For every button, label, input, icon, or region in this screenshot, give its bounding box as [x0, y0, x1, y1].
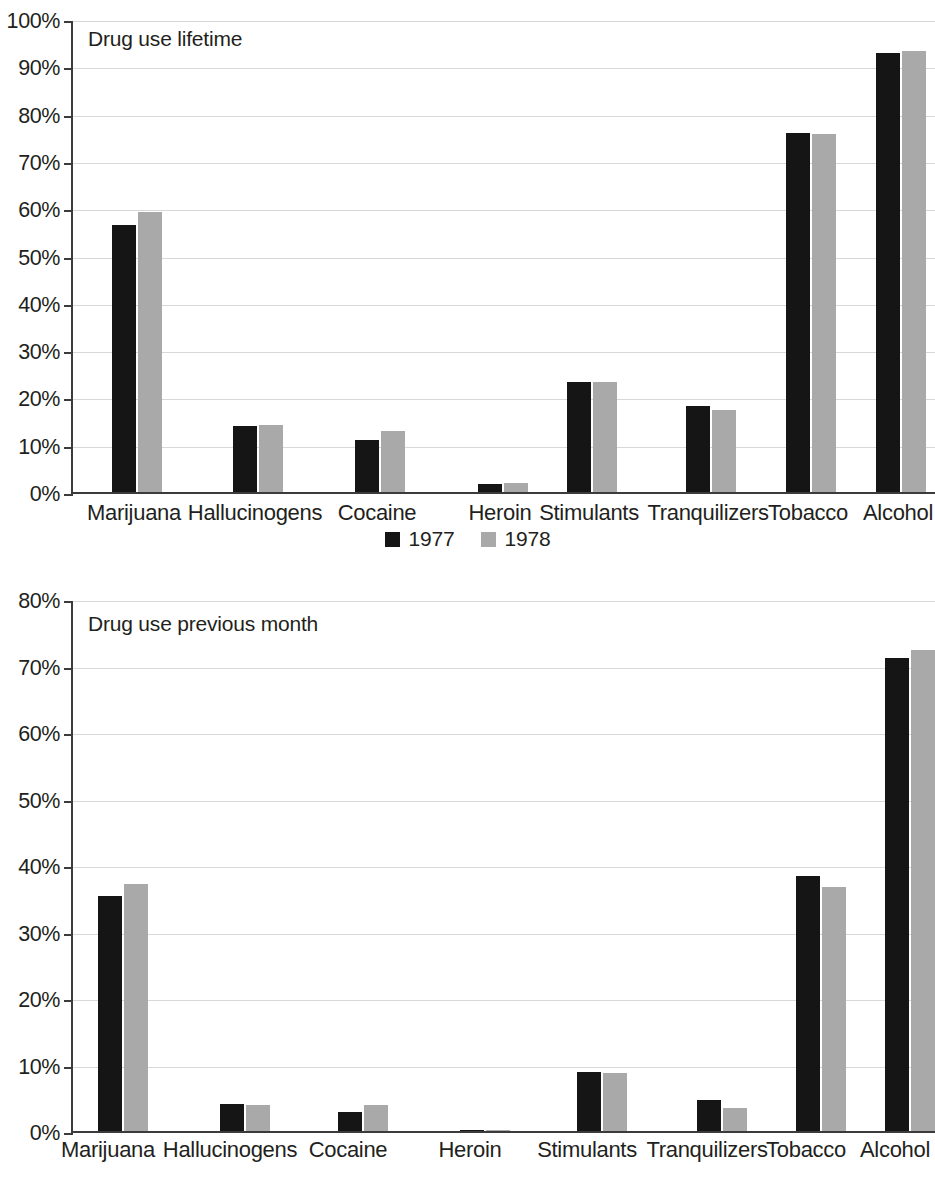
chart-title-lifetime: Drug use lifetime	[88, 27, 242, 51]
y-tick-label: 20%	[18, 387, 60, 412]
bar	[686, 406, 710, 492]
y-tick-mark	[64, 163, 73, 165]
x-axis-category-label: Tobacco	[766, 1137, 846, 1163]
y-tick-mark	[64, 734, 73, 736]
y-tick-mark	[64, 668, 73, 670]
bar	[124, 884, 148, 1131]
bar	[603, 1073, 627, 1131]
bars-lifetime	[73, 21, 935, 492]
legend-label: 1977	[409, 527, 455, 551]
bar	[504, 483, 528, 492]
y-tick-label: 40%	[18, 855, 60, 880]
x-axis-category-label: Stimulants	[539, 500, 639, 526]
x-axis-category-label: Heroin	[468, 500, 531, 526]
x-axis-category-label: Heroin	[438, 1137, 501, 1163]
x-axis-category-label: Alcohol	[863, 500, 933, 526]
x-axis-category-label: Alcohol	[860, 1137, 930, 1163]
bar	[138, 212, 162, 492]
bar	[478, 484, 502, 493]
y-tick-mark	[64, 258, 73, 260]
bar	[98, 896, 122, 1131]
y-tick-label: 100%	[7, 9, 60, 34]
y-tick-label: 30%	[18, 340, 60, 365]
y-tick-mark	[64, 601, 73, 603]
bar	[786, 133, 810, 492]
bar	[486, 1130, 510, 1132]
legend-item: 1978	[481, 527, 551, 551]
y-tick-mark	[64, 447, 73, 449]
bar	[712, 410, 736, 492]
bar	[822, 887, 846, 1131]
x-axis-labels-previous-month: MarijuanaHallucinogensCocaineHeroinStimu…	[0, 1137, 935, 1167]
bar	[911, 650, 935, 1131]
bars-previous-month	[73, 601, 935, 1131]
x-axis-category-label: Marijuana	[87, 500, 181, 526]
bar	[902, 51, 926, 492]
chart-drug-use-previous-month: 0%10%20%30%40%50%60%70%80% Drug use prev…	[0, 580, 935, 1196]
y-tick-mark	[64, 494, 73, 496]
y-tick-label: 50%	[18, 245, 60, 270]
bar	[460, 1130, 484, 1132]
y-tick-mark	[64, 116, 73, 118]
bar	[259, 425, 283, 492]
y-tick-label: 10%	[18, 1054, 60, 1079]
bar	[381, 431, 405, 492]
y-tick-mark	[64, 210, 73, 212]
bar	[338, 1112, 362, 1131]
bar	[112, 225, 136, 492]
x-axis-category-label: Cocaine	[309, 1137, 388, 1163]
chart-title-previous-month: Drug use previous month	[88, 612, 318, 636]
x-axis-category-label: Tobacco	[768, 500, 848, 526]
bar	[233, 426, 257, 492]
y-tick-label: 20%	[18, 988, 60, 1013]
y-tick-mark	[64, 801, 73, 803]
y-tick-mark	[64, 21, 73, 23]
y-tick-label: 40%	[18, 292, 60, 317]
legend-label: 1978	[505, 527, 551, 551]
bar	[723, 1108, 747, 1131]
bar	[876, 53, 900, 492]
legend-item: 1977	[385, 527, 455, 551]
bar	[355, 440, 379, 493]
legend-lifetime: 19771978	[0, 527, 935, 551]
y-tick-mark	[64, 934, 73, 936]
x-axis-category-label: Stimulants	[537, 1137, 637, 1163]
y-tick-mark	[64, 399, 73, 401]
y-tick-mark	[64, 1133, 73, 1135]
y-tick-label: 90%	[18, 56, 60, 81]
y-tick-mark	[64, 305, 73, 307]
bar	[246, 1105, 270, 1131]
bar	[697, 1100, 721, 1131]
bar	[593, 382, 617, 492]
x-axis-category-label: Tranquilizers	[646, 1137, 767, 1163]
y-tick-label: 70%	[18, 655, 60, 680]
bar	[567, 382, 591, 492]
bar	[577, 1072, 601, 1131]
x-axis-category-label: Marijuana	[61, 1137, 155, 1163]
y-tick-label: 60%	[18, 722, 60, 747]
legend-swatch-icon	[385, 532, 400, 547]
x-axis-category-label: Cocaine	[338, 500, 417, 526]
y-tick-label: 50%	[18, 788, 60, 813]
bar	[796, 876, 820, 1131]
x-axis-category-label: Hallucinogens	[188, 500, 322, 526]
x-axis-labels-lifetime: MarijuanaHallucinogensCocaineHeroinStimu…	[0, 500, 935, 530]
x-axis-category-label: Tranquilizers	[647, 500, 768, 526]
y-tick-mark	[64, 1067, 73, 1069]
bar	[812, 134, 836, 492]
y-tick-label: 10%	[18, 434, 60, 459]
legend-swatch-icon	[481, 532, 496, 547]
y-tick-mark	[64, 352, 73, 354]
y-tick-mark	[64, 1000, 73, 1002]
y-tick-label: 80%	[18, 103, 60, 128]
y-tick-mark	[64, 68, 73, 70]
bar	[364, 1105, 388, 1131]
y-tick-label: 80%	[18, 589, 60, 614]
chart-drug-use-lifetime: 0%10%20%30%40%50%60%70%80%90%100% Drug u…	[0, 0, 935, 560]
y-tick-label: 70%	[18, 150, 60, 175]
y-tick-label: 30%	[18, 921, 60, 946]
y-tick-mark	[64, 867, 73, 869]
bar	[885, 658, 909, 1131]
plot-area-previous-month: 0%10%20%30%40%50%60%70%80%	[71, 601, 935, 1133]
bar	[220, 1104, 244, 1131]
